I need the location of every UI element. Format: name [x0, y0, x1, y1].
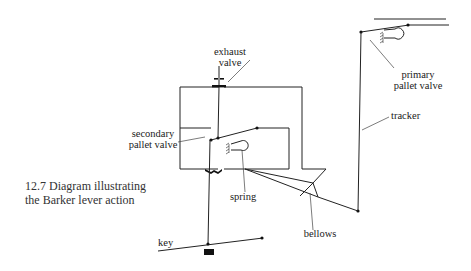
secondary-leader: [178, 137, 205, 142]
spring-label: spring: [230, 191, 257, 202]
barker-lever-diagram: exhaust valve primary pallet valve track…: [0, 0, 471, 271]
tracker-leader: [362, 117, 389, 130]
tracker-rod: [358, 32, 361, 211]
bellows-top: [245, 169, 313, 183]
figure-caption-line1: 12.7 Diagram illustrating: [25, 179, 146, 193]
secondary-valve-seat: [205, 169, 222, 174]
bellows-to-tracker: [318, 197, 358, 211]
secondary-pallet-label-2: pallet valve: [129, 139, 178, 150]
chamber: [180, 66, 326, 196]
bellows-leader: [310, 193, 313, 230]
pivot-dot: [206, 242, 209, 245]
leaders: [178, 40, 394, 230]
spring-leader: [242, 150, 245, 192]
primary-spring-icon: [384, 28, 404, 39]
secondary-spring-icon: [231, 141, 248, 151]
secondary-pallet-label: secondary: [132, 128, 175, 139]
primary-leader: [370, 40, 394, 68]
tracker-label: tracker: [391, 110, 421, 121]
exhaust-valve-label-2: valve: [219, 57, 242, 68]
primary-pallet-label: primary: [401, 69, 435, 80]
pivot-dot: [255, 126, 258, 129]
key-block: [204, 249, 214, 255]
exhaust-valve-label: exhaust: [214, 46, 246, 57]
figure-caption-line2: the Barker lever action: [25, 193, 135, 207]
pivot-dot: [260, 236, 263, 239]
pivot-dot: [406, 23, 409, 26]
exhaust-rod-lower: [218, 87, 219, 138]
key-label: key: [158, 237, 174, 248]
exhaust-valve-mark: [214, 78, 218, 80]
bellows: [245, 169, 358, 211]
sticker-rod: [208, 140, 210, 244]
primary-pallet-lever: [361, 25, 409, 32]
primary-pallet-label-2: pallet valve: [394, 80, 443, 91]
bellows-label: bellows: [304, 228, 337, 239]
